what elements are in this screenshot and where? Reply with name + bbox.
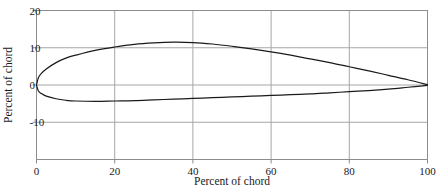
data-series bbox=[37, 42, 428, 101]
series-line bbox=[37, 42, 428, 85]
series-line bbox=[37, 85, 428, 101]
grid-lines bbox=[37, 11, 428, 160]
x-tick-label: 0 bbox=[34, 166, 40, 177]
y-axis-title: Percent of chord bbox=[3, 47, 15, 123]
axis-ticks bbox=[33, 11, 428, 164]
x-tick-label: 80 bbox=[344, 166, 355, 177]
x-tick-label: 20 bbox=[109, 166, 120, 177]
chart-canvas bbox=[0, 0, 441, 191]
x-tick-label: 100 bbox=[419, 166, 436, 177]
airfoil-chart-figure: 020406080100-1001020 Percent of chord Pe… bbox=[0, 0, 441, 191]
x-axis-title: Percent of chord bbox=[194, 176, 270, 188]
